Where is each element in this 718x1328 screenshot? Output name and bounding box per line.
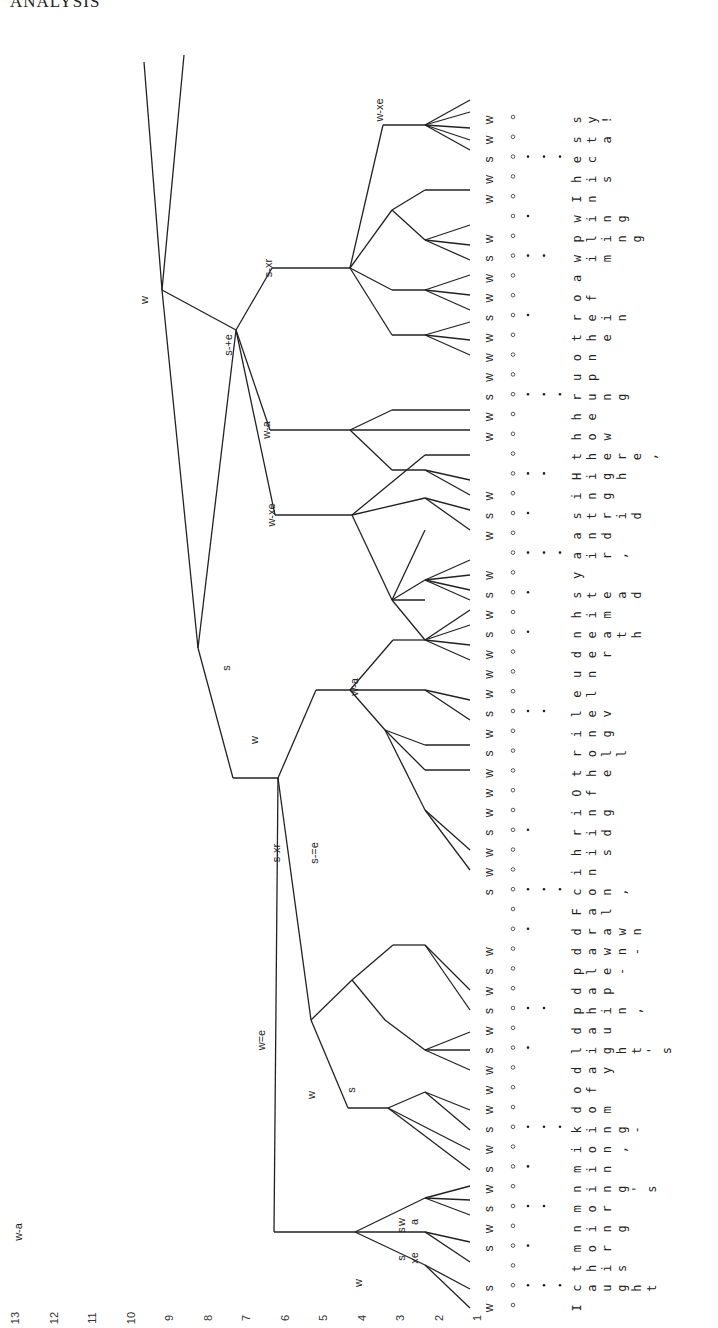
syllable-letter: o: [570, 354, 584, 361]
syllable-letter: e: [600, 453, 614, 460]
level-tick-label: 9: [163, 1315, 175, 1321]
syllable-letter: n: [615, 948, 629, 955]
syllable-letter: n: [615, 235, 629, 242]
grid-dot: [543, 1126, 546, 1129]
tree-node-label: w: [248, 736, 260, 745]
stress-mark: w: [482, 769, 496, 779]
grid-base-circle: [511, 1165, 515, 1169]
syllable-letter: t: [570, 453, 584, 460]
stress-mark: s: [482, 889, 496, 895]
grid-base-circle: [511, 511, 515, 515]
grid-dot: [527, 254, 530, 257]
syllable-letter: w: [600, 432, 614, 440]
syllable-letter: O: [570, 790, 584, 797]
syllable-letter: s: [570, 116, 584, 123]
tree-node-label: w-a: [12, 1222, 24, 1242]
syllable-letter: k: [570, 1125, 584, 1133]
tree-edge: [425, 225, 470, 240]
syllable-letter: l: [585, 691, 599, 698]
syllable-letter: H: [570, 473, 584, 480]
tree-edge: [425, 470, 470, 495]
grid-base-circle: [511, 1145, 515, 1149]
syllable-letter: ,: [645, 453, 659, 460]
syllable-letter: h: [615, 1047, 629, 1054]
grid-base-circle: [511, 1184, 515, 1188]
syllable-letter: d: [570, 1067, 584, 1074]
grid-dot: [527, 928, 530, 931]
syllable-letter: p: [600, 988, 614, 995]
tree-edge: [425, 100, 470, 125]
tree-edge: [278, 778, 311, 1020]
tree-edge: [425, 1092, 470, 1130]
syllable-letter: i: [615, 512, 629, 519]
syllable-letter: t: [585, 136, 599, 143]
tree-edges: [144, 55, 470, 1308]
syllable-letter: r: [570, 314, 584, 321]
syllable-letter: v: [600, 710, 614, 717]
tree-edge: [355, 1198, 425, 1232]
grid-base-circle: [511, 907, 515, 911]
syllable-letter: l: [600, 750, 614, 757]
grid-dot: [527, 472, 530, 475]
tree-edge: [392, 190, 425, 210]
grid-dot: [543, 393, 546, 396]
tree-node-label: s: [345, 1087, 357, 1093]
syllable-letter: r: [600, 1245, 614, 1252]
tree-edge: [425, 498, 470, 510]
syllable-letter: h: [630, 1285, 644, 1292]
grid-dot: [543, 472, 546, 475]
grid-base-circle: [511, 769, 515, 773]
syllable-letter: n: [585, 809, 599, 816]
tree-edge: [425, 610, 470, 640]
syllable-letter: !: [600, 116, 614, 123]
stress-mark: w: [482, 274, 496, 284]
tree-edge: [425, 1265, 470, 1308]
grid-base-circle: [511, 749, 515, 753]
tree-edge: [385, 730, 425, 810]
syllable-letter: r: [570, 829, 584, 836]
grid-base-circle: [511, 1283, 515, 1287]
level-tick-label: 5: [317, 1315, 329, 1321]
syllable-columns: wIscaughtthissmorwningsmorwning'ssminwio…: [482, 115, 674, 1313]
syllable-letter: r: [600, 651, 614, 658]
syllable-letter: h: [585, 334, 599, 341]
tree-node-label: w-xe: [373, 98, 385, 122]
tree-node-label: s: [395, 1227, 407, 1233]
syllable-letter: a: [585, 908, 599, 915]
syllable-letter: a: [600, 928, 614, 935]
syllable-letter: d: [630, 512, 644, 519]
syllable-letter: a: [585, 1285, 599, 1292]
syllable-letter: h: [585, 770, 599, 777]
syllable-letter: n: [600, 1166, 614, 1173]
syllable-letter: c: [570, 889, 584, 896]
level-tick-label: 7: [240, 1315, 252, 1321]
stress-mark: w: [482, 1145, 496, 1155]
syllable-letter: I: [570, 196, 584, 203]
grid-base-circle: [511, 887, 515, 891]
level-tick-label: 2: [433, 1315, 445, 1321]
syllable-letter: i: [585, 473, 599, 480]
grid-dot: [543, 710, 546, 713]
syllable-letter: t: [570, 770, 584, 777]
syllable-letter: y: [600, 1067, 614, 1074]
syllable-letter: n: [600, 889, 614, 896]
tree-edge: [425, 112, 470, 125]
syllable-letter: y: [585, 116, 599, 123]
grid-base-circle: [511, 927, 515, 931]
grid-dot: [527, 314, 530, 317]
stress-mark: w: [482, 135, 496, 145]
syllable-letter: a: [615, 592, 629, 599]
grid-base-circle: [511, 115, 515, 119]
grid-dot: [543, 888, 546, 891]
syllable-letter: s: [570, 512, 584, 519]
syllable-letter: r: [615, 453, 629, 460]
grid-dot: [527, 215, 530, 218]
stress-mark: w: [482, 1105, 496, 1115]
tree-edge: [425, 1198, 470, 1200]
grid-base-circle: [511, 1204, 515, 1208]
syllable-letter: n: [570, 631, 584, 638]
tree-edge: [162, 290, 236, 330]
stress-mark: w: [482, 789, 496, 799]
syllable-letter: u: [585, 394, 599, 401]
stress-mark: w: [482, 1066, 496, 1076]
